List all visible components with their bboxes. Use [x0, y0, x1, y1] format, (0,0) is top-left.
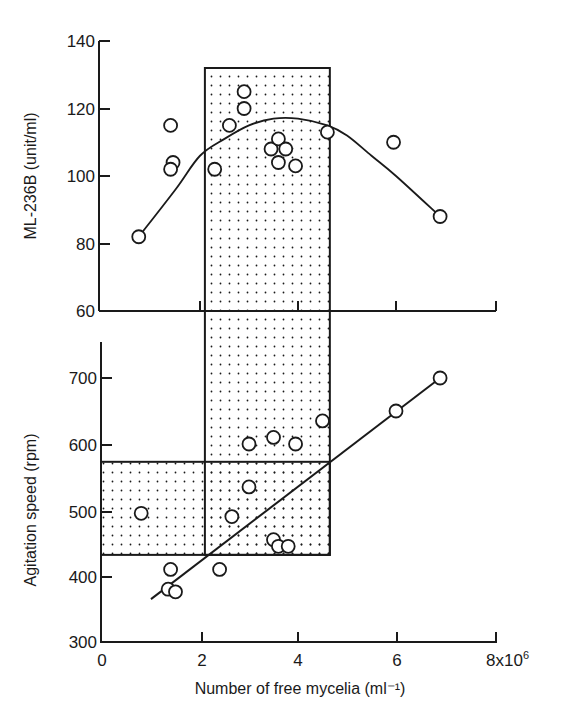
chart-figure: 140 120 100 80 60 700 600 500 400 300 0 … — [0, 0, 566, 727]
bottom-data-point — [282, 540, 295, 553]
bottom-y-axis-title: Agitation speed (rpm) — [22, 434, 39, 587]
top-data-point — [164, 163, 177, 176]
bottom-y-tick-500: 500 — [69, 503, 97, 522]
x-tick-8: 8x106 — [486, 649, 529, 670]
x-axis-title: Number of free mycelia (ml⁻¹) — [195, 680, 406, 697]
bottom-data-point — [289, 438, 302, 451]
x-tick-0: 0 — [97, 651, 106, 670]
bottom-y-tick-300: 300 — [69, 633, 97, 652]
top-y-tick-labels: 140 120 100 80 60 — [67, 32, 95, 321]
bottom-y-tick-700: 700 — [69, 369, 97, 388]
bottom-data-point — [225, 510, 238, 523]
x-tick-4: 4 — [293, 651, 302, 670]
bottom-data-point — [316, 414, 329, 427]
top-y-axis-title: ML-236B (unit/ml) — [22, 112, 39, 239]
top-y-tick-60: 60 — [76, 302, 95, 321]
x-tick-6: 6 — [392, 651, 401, 670]
top-y-tick-100: 100 — [67, 167, 95, 186]
top-data-point — [164, 119, 177, 132]
top-y-tick-140: 140 — [67, 32, 95, 51]
bottom-data-point — [169, 585, 182, 598]
bottom-data-point — [135, 507, 148, 520]
bottom-horizontal-shaded-region — [101, 462, 330, 555]
top-data-point — [289, 159, 302, 172]
x-tick-labels: 0 2 4 6 8x106 — [97, 649, 529, 670]
bottom-data-point — [390, 405, 403, 418]
top-data-point — [321, 126, 334, 139]
top-data-point — [279, 143, 292, 156]
x-tick-2: 2 — [197, 651, 206, 670]
top-data-point — [387, 136, 400, 149]
top-data-point — [238, 85, 251, 98]
top-data-point — [208, 163, 221, 176]
bottom-data-point — [213, 563, 226, 576]
bottom-y-tick-400: 400 — [69, 568, 97, 587]
bottom-y-tick-600: 600 — [69, 436, 97, 455]
bottom-data-point — [243, 438, 256, 451]
top-y-tick-80: 80 — [76, 235, 95, 254]
top-data-point — [223, 119, 236, 132]
top-data-point — [132, 230, 145, 243]
bottom-data-point — [434, 372, 447, 385]
bottom-data-point — [164, 563, 177, 576]
bottom-data-point — [267, 431, 280, 444]
top-data-point — [434, 210, 447, 223]
top-data-point — [238, 102, 251, 115]
top-shaded-region — [205, 68, 330, 311]
top-data-point — [272, 156, 285, 169]
bottom-y-tick-labels: 700 600 500 400 300 — [69, 369, 97, 652]
top-y-tick-120: 120 — [67, 100, 95, 119]
bottom-data-point — [243, 480, 256, 493]
